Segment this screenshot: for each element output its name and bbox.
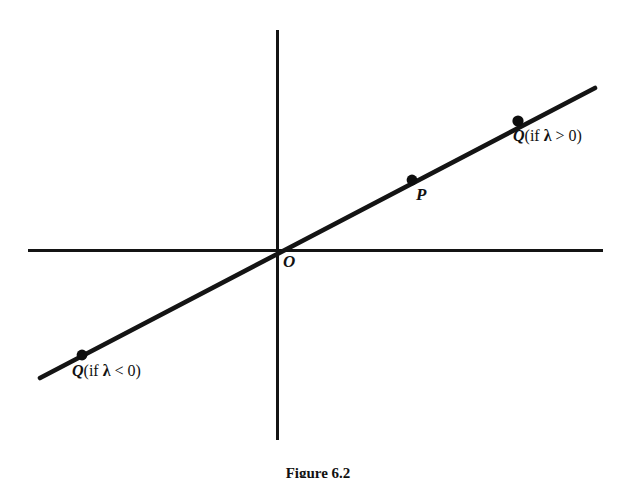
origin-symbol: O xyxy=(283,252,295,271)
q-negative-condition-open: (if xyxy=(84,362,103,379)
line-through-origin xyxy=(40,88,595,378)
figure-container: O P Q(if λ > 0) Q(if λ < 0) Figure 6.2 xyxy=(0,0,636,478)
q-negative-symbol: Q xyxy=(72,362,84,379)
lambda-symbol: λ xyxy=(103,362,111,379)
point-label-q-negative: Q(if λ < 0) xyxy=(72,363,141,379)
q-positive-condition-close: > 0) xyxy=(552,127,582,144)
point-label-q-positive: Q(if λ > 0) xyxy=(513,128,582,144)
q-positive-condition-open: (if xyxy=(525,127,544,144)
point-label-origin: O xyxy=(283,253,295,270)
point-q-positive-marker xyxy=(512,115,523,126)
point-p-marker xyxy=(407,175,418,186)
figure-caption: Figure 6.2 xyxy=(0,466,636,478)
figure-diagram xyxy=(0,0,636,478)
lambda-symbol: λ xyxy=(544,127,552,144)
q-positive-symbol: Q xyxy=(513,127,525,144)
point-q-negative-marker xyxy=(77,350,88,361)
q-negative-condition-close: < 0) xyxy=(111,362,141,379)
point-label-p: P xyxy=(416,186,426,203)
point-p-symbol: P xyxy=(416,185,426,204)
